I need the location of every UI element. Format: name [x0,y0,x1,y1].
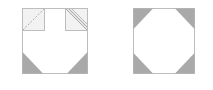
right-figure [134,9,195,74]
left-figure [23,9,88,74]
octagon-dissection-diagram [0,0,213,90]
